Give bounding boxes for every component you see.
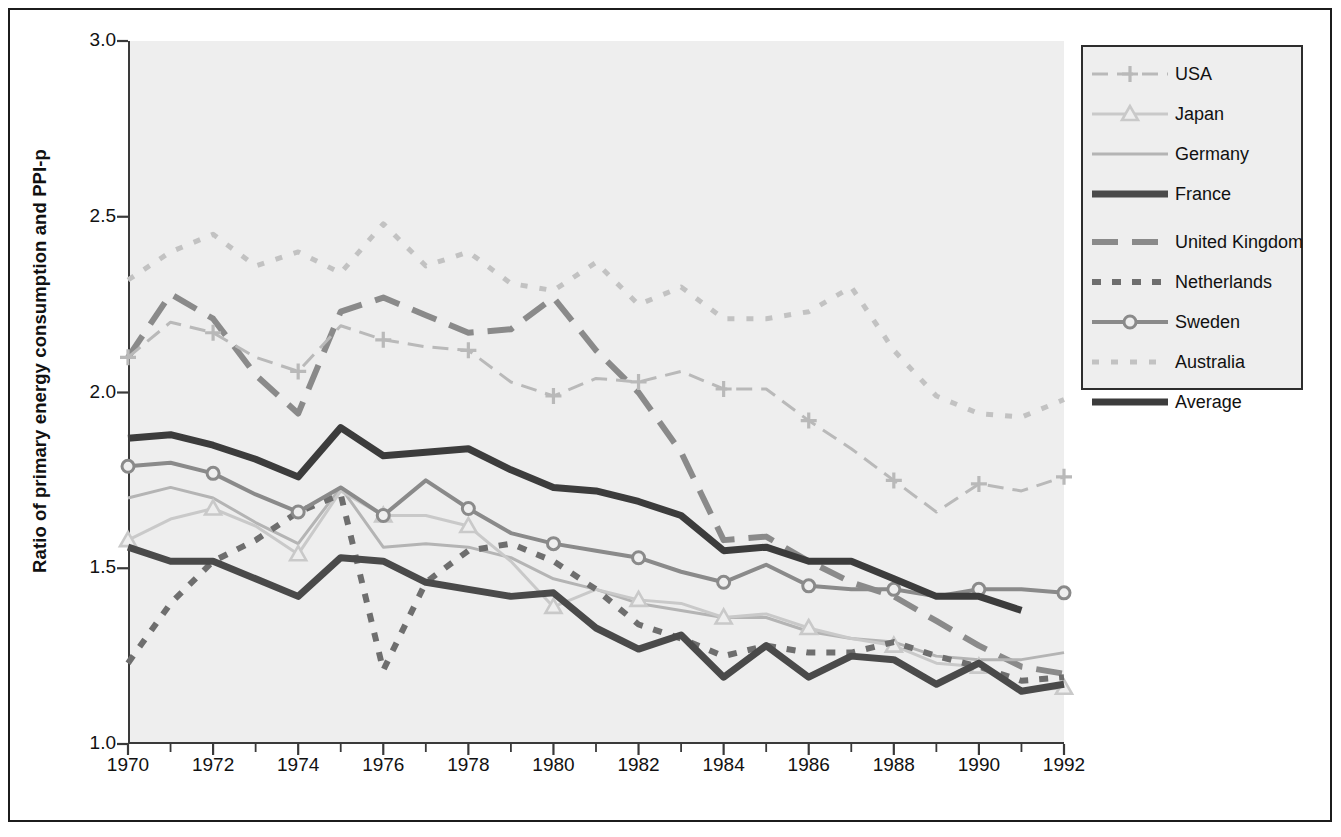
legend-item-sweden[interactable]: Sweden — [1083, 303, 1305, 341]
legend-item-netherlands[interactable]: Netherlands — [1083, 263, 1305, 301]
legend-swatch-icon — [1091, 351, 1169, 373]
legend-swatch-icon — [1091, 103, 1169, 125]
plot-area — [128, 41, 1064, 744]
legend: USAJapanGermanyFranceUnited KingdomNethe… — [1081, 45, 1303, 390]
legend-item-germany[interactable]: Germany — [1083, 135, 1305, 173]
x-tick-label: 1972 — [178, 754, 248, 776]
y-tick-label: 3.0 — [56, 29, 116, 51]
legend-swatch-icon — [1091, 183, 1169, 205]
legend-swatch-icon — [1091, 231, 1169, 253]
legend-item-australia[interactable]: Australia — [1083, 343, 1305, 381]
legend-label: Japan — [1175, 104, 1224, 125]
x-tick-label: 1988 — [859, 754, 929, 776]
legend-label: Australia — [1175, 352, 1245, 373]
y-tick-label: 1.5 — [56, 556, 116, 578]
y-tick-label: 1.0 — [56, 732, 116, 754]
y-tick-label: 2.5 — [56, 205, 116, 227]
x-tick-label: 1986 — [774, 754, 844, 776]
x-tick-label: 1974 — [263, 754, 333, 776]
x-tick-label: 1978 — [433, 754, 503, 776]
legend-swatch-icon — [1091, 311, 1169, 333]
legend-item-japan[interactable]: Japan — [1083, 95, 1305, 133]
legend-label: Average — [1175, 392, 1242, 413]
legend-swatch-icon — [1091, 391, 1169, 413]
legend-swatch-icon — [1091, 63, 1169, 85]
legend-swatch-icon — [1091, 271, 1169, 293]
legend-label: France — [1175, 184, 1231, 205]
x-tick-label: 1976 — [348, 754, 418, 776]
y-axis-title: Ratio of primary energy consumption and … — [29, 41, 51, 681]
x-tick-label: 1980 — [518, 754, 588, 776]
x-tick-label: 1992 — [1029, 754, 1099, 776]
x-tick-label: 1982 — [604, 754, 674, 776]
legend-item-france[interactable]: France — [1083, 175, 1305, 213]
legend-item-united-kingdom[interactable]: United Kingdom — [1083, 223, 1305, 261]
legend-label: USA — [1175, 64, 1212, 85]
legend-label: Sweden — [1175, 312, 1240, 333]
legend-label: Germany — [1175, 144, 1249, 165]
x-tick-label: 1984 — [689, 754, 759, 776]
legend-swatch-icon — [1091, 143, 1169, 165]
legend-label: Netherlands — [1175, 272, 1272, 293]
legend-item-usa[interactable]: USA — [1083, 55, 1305, 93]
x-tick-label: 1990 — [944, 754, 1014, 776]
x-tick-label: 1970 — [93, 754, 163, 776]
legend-item-average[interactable]: Average — [1083, 383, 1305, 421]
chart-figure: Ratio of primary energy consumption and … — [0, 0, 1341, 837]
legend-label: United Kingdom — [1175, 232, 1303, 253]
y-tick-label: 2.0 — [56, 381, 116, 403]
